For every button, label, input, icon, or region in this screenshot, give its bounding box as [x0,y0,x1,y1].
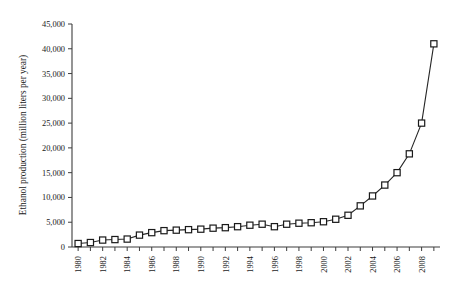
x-axis-tick-label: 1992 [222,256,231,273]
y-axis-tick-label: 0 [61,243,65,252]
y-axis-title-text: Ethanol production (million liters per y… [18,55,29,215]
data-point-marker [173,227,179,233]
data-point-marker [369,193,375,199]
axes-lines [72,24,440,247]
data-point-marker [271,224,277,230]
data-point-marker [87,239,93,245]
data-point-marker [247,222,253,228]
y-axis-tick-label: 15,000 [42,169,65,178]
y-axis-tick-label: 45,000 [42,20,65,29]
x-axis-tick-label: 2008 [418,256,427,273]
y-axis-tick-label: 20,000 [42,144,65,153]
y-axis-tick-labels: 05,00010,00015,00020,00025,00030,00035,0… [42,20,65,252]
x-axis-tick-label: 1988 [172,256,181,273]
x-axis-tick-label: 1994 [246,255,255,273]
data-point-marker [235,224,241,230]
data-point-marker [259,221,265,227]
data-point-marker [382,182,388,188]
x-axis-tick-label: 2002 [344,256,353,273]
y-axis-tick-label: 35,000 [42,70,65,79]
x-axis-tick-label: 1986 [148,256,157,273]
data-point-marker [345,212,351,218]
data-point-marker [100,237,106,243]
y-axis-tick-marks [68,24,72,247]
data-point-marker [431,41,437,47]
data-point-marker [406,151,412,157]
data-point-marker [357,203,363,209]
data-point-marker [124,236,130,242]
chart-canvas: Ethanol production (million liters per y… [0,0,449,306]
data-point-marker [198,226,204,232]
data-point-marker [296,220,302,226]
data-point-marker [320,219,326,225]
x-axis-tick-label: 1990 [197,256,206,273]
x-axis-tick-label: 2004 [369,255,378,273]
data-point-marker [161,228,167,234]
y-axis-tick-label: 25,000 [42,119,65,128]
data-point-marker [185,227,191,233]
data-point-marker [394,170,400,176]
data-point-marker [112,236,118,242]
x-axis-tick-label: 2006 [393,256,402,273]
ethanol-production-chart-figure: Ethanol production (million liters per y… [0,0,449,306]
data-point-marker [149,230,155,236]
x-axis-tick-marks [78,247,434,251]
x-axis-tick-label: 1982 [99,256,108,273]
x-axis-tick-label: 1980 [74,256,83,273]
y-axis-tick-label: 10,000 [42,193,65,202]
x-axis-tick-label: 1996 [271,256,280,273]
data-point-marker [419,120,425,126]
x-axis-tick-labels: 1980198219841986198819901992199419961998… [74,255,426,273]
data-point-marker [136,232,142,238]
data-point-marker [222,225,228,231]
y-axis-tick-label: 30,000 [42,94,65,103]
y-axis-tick-label: 5,000 [46,218,65,227]
y-axis-title: Ethanol production (million liters per y… [18,55,29,215]
ethanol-production-series-markers [75,41,437,247]
data-point-marker [284,221,290,227]
data-point-marker [210,225,216,231]
x-axis-tick-label: 1998 [295,256,304,273]
x-axis-tick-label: 1984 [123,255,132,273]
data-point-marker [333,216,339,222]
ethanol-production-series-line [78,44,434,244]
x-axis-tick-label: 2000 [320,256,329,273]
y-axis-tick-label: 40,000 [42,45,65,54]
data-point-marker [75,240,81,246]
data-point-marker [308,220,314,226]
